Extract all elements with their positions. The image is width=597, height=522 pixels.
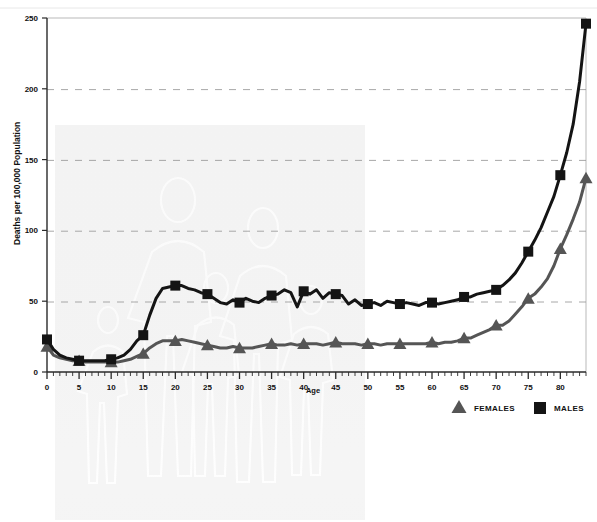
y-tick-label: 250 <box>25 14 39 23</box>
data-point-marker <box>427 298 437 308</box>
x-tick-label: 25 <box>203 383 212 392</box>
x-axis-title: Age <box>306 386 320 395</box>
data-point-marker <box>395 299 405 309</box>
x-tick-label: 80 <box>556 383 565 392</box>
x-tick-label: 45 <box>331 383 340 392</box>
data-point-marker <box>459 292 469 302</box>
family-silhouette-watermark <box>55 125 365 520</box>
data-point-marker <box>299 286 309 296</box>
x-tick-label: 5 <box>77 383 82 392</box>
x-tick-label: 75 <box>524 383 533 392</box>
data-point-marker <box>523 247 533 257</box>
x-tick-label: 15 <box>139 383 148 392</box>
legend-label-males: MALES <box>554 404 584 413</box>
data-point-marker <box>138 330 148 340</box>
data-point-marker <box>581 19 591 29</box>
data-point-marker <box>491 285 501 295</box>
y-axis-ticks <box>42 18 47 372</box>
legend-label-females: FEMALES <box>474 404 515 413</box>
x-tick-label: 50 <box>363 383 372 392</box>
chart-container: 050100150200250 051015202530354045505560… <box>0 0 597 522</box>
data-point-marker <box>579 172 592 183</box>
y-tick-label: 50 <box>29 297 38 306</box>
chart-legend: FEMALES MALES <box>452 400 585 414</box>
x-tick-label: 60 <box>428 383 437 392</box>
data-point-marker <box>363 299 373 309</box>
y-axis-tick-labels: 050100150200250 <box>25 14 39 377</box>
y-axis-title: Deaths per 100,000 Population <box>12 122 22 245</box>
deaths-by-age-line-chart: 050100150200250 051015202530354045505560… <box>0 0 597 522</box>
data-point-marker <box>202 289 212 299</box>
data-point-marker <box>331 289 341 299</box>
data-point-marker <box>555 170 565 180</box>
x-tick-label: 70 <box>492 383 501 392</box>
x-tick-label: 65 <box>460 383 469 392</box>
x-tick-label: 35 <box>267 383 276 392</box>
y-tick-label: 100 <box>25 226 39 235</box>
female-triangle-icon <box>452 400 467 413</box>
data-point-marker <box>74 356 84 366</box>
y-tick-label: 200 <box>25 85 39 94</box>
x-tick-label: 10 <box>107 383 116 392</box>
data-point-marker <box>170 281 180 291</box>
data-point-marker <box>554 243 567 254</box>
x-tick-label: 0 <box>45 383 50 392</box>
male-square-icon <box>534 402 546 414</box>
y-tick-label: 150 <box>25 156 39 165</box>
y-tick-label: 0 <box>34 368 39 377</box>
x-tick-label: 55 <box>395 383 404 392</box>
data-point-marker <box>267 291 277 301</box>
data-point-marker <box>42 334 52 344</box>
data-point-marker <box>106 354 116 364</box>
x-tick-label: 30 <box>235 383 244 392</box>
x-tick-label: 20 <box>171 383 180 392</box>
data-point-marker <box>235 298 245 308</box>
